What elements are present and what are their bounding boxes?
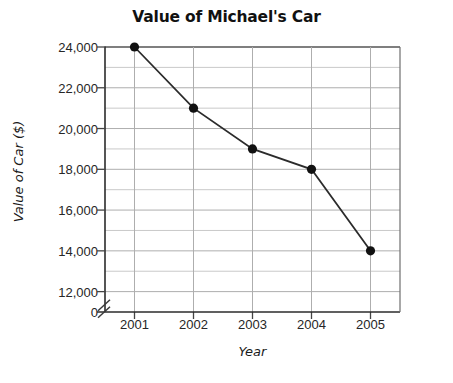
line-chart-figure: Value of Michael's Car 24,00022,00020,00… [0,0,453,383]
y-axis-title: Value of Car ($) [11,92,26,252]
x-axis-tick-label: 2002 [162,317,226,332]
data-point-marker [130,42,139,51]
y-axis-tick-label: 16,000 [28,203,98,218]
y-axis-tick-label: 22,000 [28,80,98,95]
data-point-marker [189,104,198,113]
data-point-marker [366,246,375,255]
x-axis-tick-label: 2003 [221,317,285,332]
data-point-marker [307,165,316,174]
x-axis-tick-label: 2001 [103,317,167,332]
x-axis-tick-labels: 20012002200320042005 [0,317,453,341]
y-axis-tick-label: 24,000 [28,40,98,55]
x-axis-tick-label: 2005 [339,317,403,332]
chart-canvas [105,47,400,312]
plot-area [105,47,400,312]
data-point-marker [248,144,257,153]
y-axis-tick-label: 20,000 [28,121,98,136]
x-axis-tick-label: 2004 [280,317,344,332]
y-axis-tick-label: 14,000 [28,243,98,258]
y-axis-tick-label: 18,000 [28,162,98,177]
y-axis-tick-label: 12,000 [28,284,98,299]
x-axis-title: Year [105,344,400,359]
